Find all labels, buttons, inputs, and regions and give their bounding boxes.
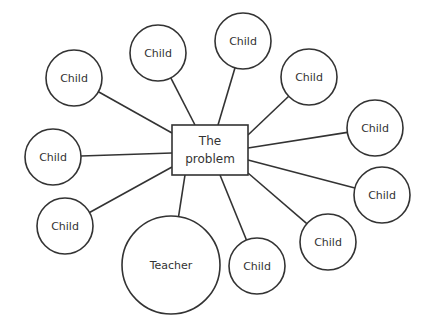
node-label: Teacher <box>149 259 193 272</box>
connector-line <box>90 167 172 212</box>
connector-line <box>98 92 172 133</box>
connector-line <box>248 96 289 135</box>
child-node: Child <box>215 13 271 69</box>
connector-line <box>248 160 355 188</box>
center-label-line1: The <box>198 134 221 148</box>
connector-line <box>81 153 172 156</box>
node-label: Child <box>51 220 79 233</box>
child-node: Child <box>25 129 81 185</box>
center-node: The problem <box>172 125 248 175</box>
node-label: Child <box>39 151 67 164</box>
node-label: Child <box>243 260 271 273</box>
node-label: Child <box>229 35 257 48</box>
node-label: Child <box>144 47 172 60</box>
problem-diagram: ChildChildChildChildChildChildChildChild… <box>0 0 430 333</box>
center-box <box>172 125 248 175</box>
child-node: Child <box>229 238 285 294</box>
node-label: Child <box>314 236 342 249</box>
child-node: Child <box>300 214 356 270</box>
child-node: Child <box>354 167 410 223</box>
child-node: Child <box>347 100 403 156</box>
node-label: Child <box>368 189 396 202</box>
connector-line <box>179 175 185 217</box>
connector-line <box>248 132 347 148</box>
center-label-line2: problem <box>185 152 235 166</box>
connector-line <box>171 78 195 125</box>
node-label: Child <box>295 71 323 84</box>
child-node: Child <box>46 50 102 106</box>
node-label: Child <box>361 122 389 135</box>
connector-line <box>220 175 246 240</box>
child-node: Child <box>37 198 93 254</box>
connector-line <box>218 68 235 125</box>
connector-line <box>248 173 307 224</box>
teacher-node: Teacher <box>122 216 220 314</box>
child-node: Child <box>281 49 337 105</box>
node-label: Child <box>60 72 88 85</box>
child-node: Child <box>130 25 186 81</box>
